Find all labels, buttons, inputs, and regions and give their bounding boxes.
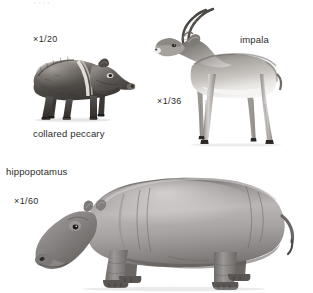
impala-scale-label: ×1/36 bbox=[157, 96, 182, 107]
illustration-plate: , , , , ×1/20 bbox=[0, 0, 313, 293]
collared-peccary-illustration bbox=[18, 44, 144, 122]
peccary-name-label: collared peccary bbox=[33, 128, 105, 139]
hippopotamus-illustration bbox=[18, 168, 310, 292]
impala-illustration bbox=[148, 4, 298, 148]
